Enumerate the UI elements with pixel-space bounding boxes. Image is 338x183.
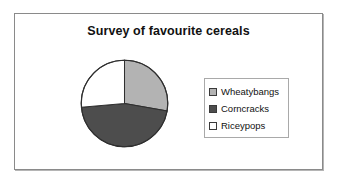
legend-item-corncracks[interactable]: Corncracks (209, 100, 288, 117)
pie-slice[interactable] (81, 104, 167, 147)
legend-item-label: Riceypops (221, 121, 265, 131)
chart-frame: Survey of favourite cereals Wheatybangs … (14, 13, 323, 170)
legend-swatch-icon (209, 122, 217, 130)
chart-title: Survey of favourite cereals (15, 24, 322, 38)
pie-chart-svg (78, 57, 171, 150)
legend-item-riceypops[interactable]: Riceypops (209, 117, 288, 134)
chart-legend: Wheatybangs Corncracks Riceypops (204, 78, 289, 138)
pie-chart (78, 57, 171, 150)
legend-item-label: Wheatybangs (221, 87, 279, 97)
legend-swatch-icon (209, 105, 217, 113)
pie-slice[interactable] (81, 60, 124, 107)
legend-item-label: Corncracks (221, 104, 269, 114)
legend-swatch-icon (209, 88, 217, 96)
legend-item-wheatybangs[interactable]: Wheatybangs (209, 83, 288, 100)
pie-slice[interactable] (125, 60, 168, 111)
